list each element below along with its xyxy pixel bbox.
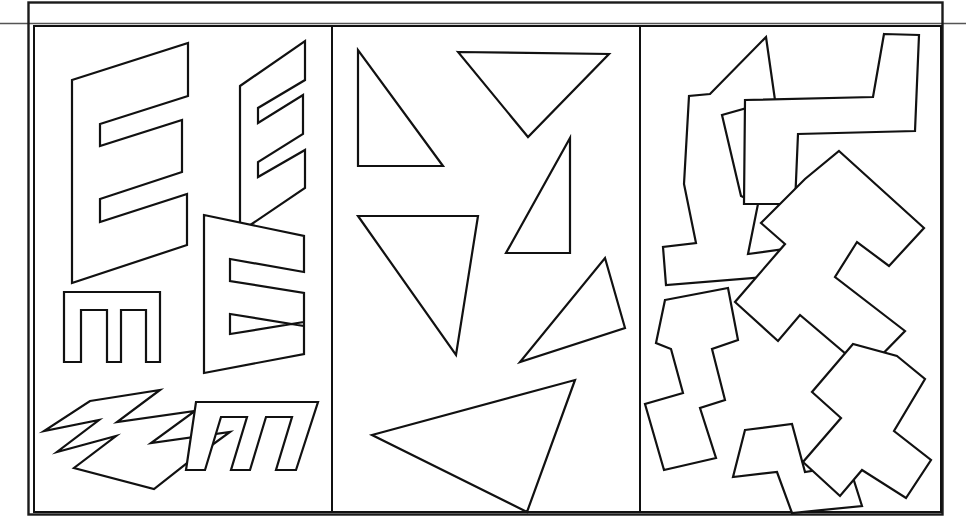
shape-figure-canvas bbox=[0, 0, 966, 530]
slanted-w-e-bottom-right bbox=[186, 402, 318, 470]
rotated-e-small bbox=[64, 292, 160, 362]
figure-root bbox=[0, 0, 966, 530]
large-slanted-e bbox=[72, 43, 188, 283]
medium-slanted-e-middle-right bbox=[204, 215, 304, 373]
